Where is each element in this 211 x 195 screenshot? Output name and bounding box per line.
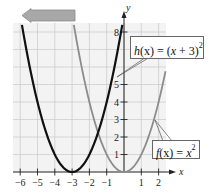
h-function-label: h(x) = (x + 3)2 [130, 36, 204, 59]
x-axis-arrow-icon [169, 170, 176, 175]
y-tick-label: 2 [114, 132, 119, 143]
x-tick-label: −3 [67, 177, 78, 188]
f-exponent: 2 [191, 143, 195, 152]
x-tick-label: −4 [49, 177, 60, 188]
graph: x−6−5−4−3−2−112 y123458 [0, 0, 211, 195]
y-tick-label: 1 [114, 149, 119, 160]
h-exponent: 2 [199, 41, 203, 50]
y-tick-label: 5 [114, 79, 119, 90]
h-fn-arg: (x) [140, 44, 154, 58]
h-eq: = ( [154, 44, 171, 58]
x-tick-label: 1 [139, 177, 144, 188]
f-eq: = [173, 146, 186, 160]
h-rest: + 3) [176, 44, 199, 58]
f-function-label: f(x) = x2 [152, 140, 200, 159]
x-tick-label: −5 [32, 177, 43, 188]
x-axis-label: x [178, 166, 184, 177]
y-tick-label: 8 [114, 27, 119, 38]
y-tick-label: 4 [114, 97, 119, 108]
x-tick-label: −6 [15, 177, 26, 188]
y-tick-label: 3 [114, 114, 119, 125]
x-tick-label: −1 [101, 177, 112, 188]
x-tick-label: −2 [84, 177, 95, 188]
f-fn-arg: (x) [159, 146, 173, 160]
y-axis-label: y [125, 2, 131, 13]
shift-left-arrow-icon [22, 9, 75, 23]
x-tick-label: 2 [156, 177, 161, 188]
